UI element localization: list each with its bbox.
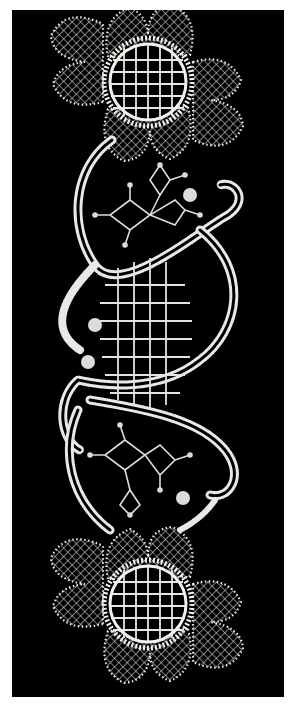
lace-bookmark-illustration (12, 10, 284, 697)
lace-photograph (12, 10, 284, 697)
